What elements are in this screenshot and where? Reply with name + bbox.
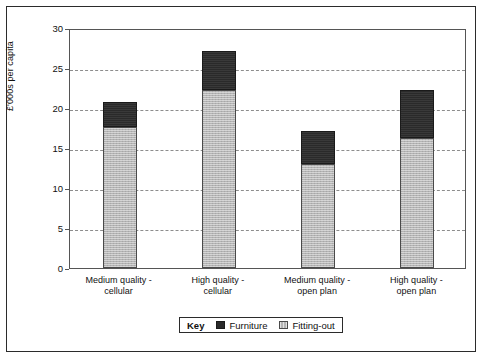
legend-label-furniture: Furniture [229, 320, 267, 331]
y-axis-tick-label: 20 [33, 104, 63, 114]
legend-entry-fitting-out: Fitting-out [279, 320, 334, 331]
bar-stack [400, 29, 434, 268]
y-axis-tick-label: 25 [33, 64, 63, 74]
y-axis-tick-label: 0 [33, 264, 63, 274]
bar-segment-fitting-out [103, 127, 137, 268]
chart-frame: £'000s per capita 051015202530 Medium qu… [6, 6, 476, 352]
y-axis-tick-label: 10 [33, 184, 63, 194]
y-axis-tick-mark [65, 269, 69, 270]
x-axis-category-label-line: open plan [268, 286, 367, 297]
legend-label-fitting-out: Fitting-out [292, 320, 334, 331]
x-axis-category-label: High quality -cellular [168, 275, 267, 297]
x-axis-category-label-line: cellular [168, 286, 267, 297]
x-axis-category-label-line: Medium quality - [268, 275, 367, 286]
x-axis-category-label: High quality -open plan [367, 275, 466, 297]
y-axis-tick-label: 15 [33, 144, 63, 154]
x-axis-category-label-line: High quality - [367, 275, 466, 286]
x-axis-category-label-line: cellular [69, 286, 168, 297]
bar-segment-furniture [301, 131, 335, 164]
bar-stack [301, 29, 335, 268]
bar-segment-fitting-out [400, 138, 434, 268]
x-axis-category-label: Medium quality -cellular [69, 275, 168, 297]
x-axis-category-label-line: open plan [367, 286, 466, 297]
legend-swatch-fitting-out-icon [279, 321, 288, 329]
x-axis-category-label-line: High quality - [168, 275, 267, 286]
y-axis-tick-label: 5 [33, 224, 63, 234]
bar-segment-furniture [103, 102, 137, 128]
x-axis-category-label-line: Medium quality - [69, 275, 168, 286]
bar-segment-fitting-out [202, 90, 236, 268]
bar-stack [103, 29, 137, 268]
bar-segment-furniture [400, 90, 434, 138]
bar-segment-furniture [202, 51, 236, 89]
bar-segment-fitting-out [301, 164, 335, 268]
y-axis-tick-label: 30 [33, 24, 63, 34]
legend-entry-furniture: Furniture [216, 320, 267, 331]
chart-legend: Key Furniture Fitting-out [179, 317, 343, 333]
legend-key-label: Key [187, 320, 204, 331]
plot-area [69, 29, 466, 269]
bar-stack [202, 29, 236, 268]
legend-swatch-furniture-icon [216, 321, 225, 329]
x-axis-category-label: Medium quality -open plan [268, 275, 367, 297]
y-axis-label: £'000s per capita [5, 0, 15, 111]
